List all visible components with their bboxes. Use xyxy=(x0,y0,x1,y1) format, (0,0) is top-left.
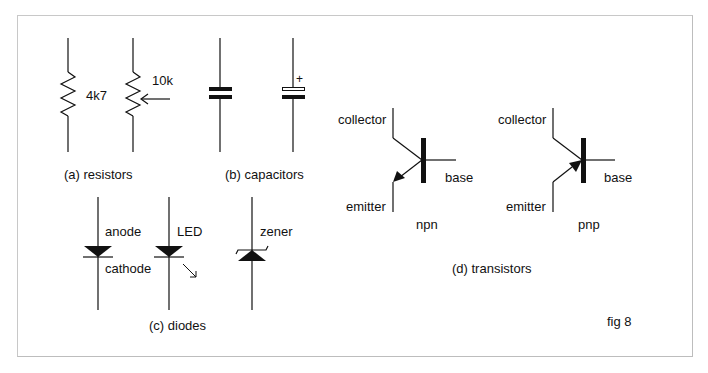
npn-emitter-label: emitter xyxy=(346,200,386,213)
pnp-base-label: base xyxy=(604,171,632,184)
circuit-symbols xyxy=(0,0,708,373)
pnp-emitter-label: emitter xyxy=(506,200,546,213)
led-label: LED xyxy=(177,225,202,238)
resistor-variable-symbol xyxy=(126,38,170,152)
npn-type-label: npn xyxy=(416,218,438,231)
capacitors-caption: (b) capacitors xyxy=(225,168,304,181)
resistor-value-label: 4k7 xyxy=(86,89,107,102)
capacitor-electrolytic-symbol xyxy=(282,38,305,152)
transistor-npn-symbol xyxy=(393,108,456,212)
diode-symbol xyxy=(83,197,113,310)
anode-label: anode xyxy=(105,225,141,238)
pnp-type-label: pnp xyxy=(578,218,600,231)
resistor-fixed-symbol xyxy=(61,38,75,152)
pnp-collector-label: collector xyxy=(498,113,546,126)
figure-label: fig 8 xyxy=(607,315,632,328)
transistors-caption: (d) transistors xyxy=(452,262,531,275)
led-symbol xyxy=(154,197,196,310)
zener-symbol xyxy=(236,197,268,310)
resistors-caption: (a) resistors xyxy=(64,168,133,181)
npn-collector-label: collector xyxy=(338,113,386,126)
diodes-caption: (c) diodes xyxy=(149,319,206,332)
capacitor-polarity-mark: + xyxy=(296,73,303,85)
variable-resistor-value-label: 10k xyxy=(152,74,173,87)
transistor-pnp-symbol xyxy=(553,108,615,212)
cathode-label: cathode xyxy=(105,262,151,275)
zener-label: zener xyxy=(260,225,293,238)
npn-base-label: base xyxy=(445,171,473,184)
capacitor-symbol xyxy=(209,38,232,152)
